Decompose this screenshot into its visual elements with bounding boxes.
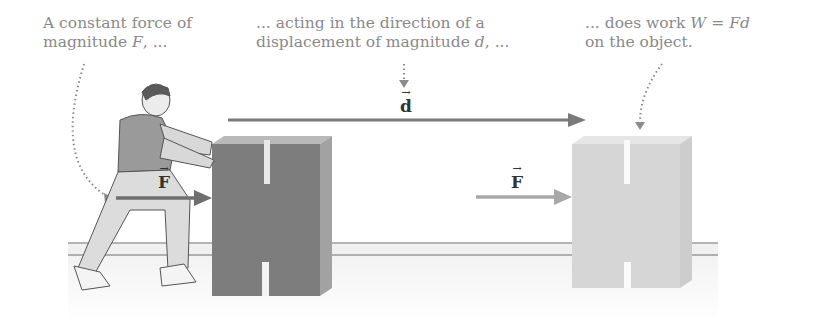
work-diagram <box>0 0 818 324</box>
displacement-vector-label: →d <box>396 90 416 116</box>
block-initial <box>212 136 332 296</box>
force-vector-label-final: →F <box>507 166 527 192</box>
force-vector-label-initial: →F <box>154 166 174 192</box>
block-final <box>572 136 692 288</box>
leader-arrowhead-work <box>635 122 645 130</box>
